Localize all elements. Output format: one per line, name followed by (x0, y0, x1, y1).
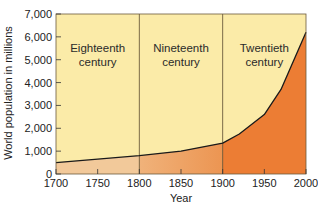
y-tick-label: 1,000 (24, 145, 52, 157)
population-chart: EighteenthcenturyNineteenthcenturyTwenti… (0, 0, 318, 213)
y-tick-label: 5,000 (24, 54, 52, 66)
x-axis-title: Year (170, 192, 193, 204)
century-label-twentieth-sub: century (245, 56, 283, 68)
century-label-eighteenth-sub: century (79, 56, 117, 68)
century-label-twentieth: Twentieth (240, 42, 289, 54)
century-label-nineteenth: Nineteenth (153, 42, 209, 54)
century-label-eighteenth: Eighteenth (70, 42, 125, 54)
y-tick-label: 7,000 (24, 8, 52, 20)
y-axis: 01,0002,0003,0004,0005,0006,0007,000 (24, 8, 61, 180)
y-tick-label: 3,000 (24, 99, 52, 111)
y-tick-label: 6,000 (24, 31, 52, 43)
y-tick-label: 2,000 (24, 122, 52, 134)
x-tick-label: 1800 (127, 177, 151, 189)
y-axis-title: World population in millions (2, 26, 14, 160)
y-tick-label: 4,000 (24, 77, 52, 89)
x-tick-label: 2000 (294, 177, 318, 189)
x-tick-label: 1850 (169, 177, 193, 189)
x-tick-label: 1700 (44, 177, 68, 189)
century-label-nineteenth-sub: century (162, 56, 200, 68)
x-tick-label: 1900 (210, 177, 234, 189)
x-tick-label: 1950 (252, 177, 276, 189)
x-tick-label: 1750 (85, 177, 109, 189)
